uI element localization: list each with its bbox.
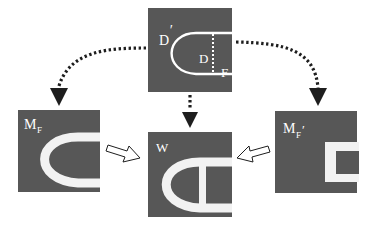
hollow-arrow-left-to-center: [106, 145, 140, 162]
panel-right-mf-prime: M F ′: [275, 111, 359, 193]
dotted-arrow-top-to-center: [182, 95, 198, 128]
label-f-inner: F: [221, 65, 228, 80]
label-m: M: [283, 121, 296, 136]
label-d-inner: D: [199, 51, 208, 66]
label-m: M: [24, 117, 37, 132]
prime-mark: ′: [302, 122, 305, 137]
label-w: W: [156, 140, 169, 155]
dotted-arrow-top-to-right: [236, 42, 327, 106]
hollow-arrow-right-to-center: [237, 146, 270, 162]
diagram-canvas: D ′ D F M F W M F ′: [0, 0, 370, 226]
label-subscript-f: F: [296, 130, 301, 140]
panel-top: D ′ D F: [148, 8, 234, 92]
dotted-arrow-top-to-left: [50, 48, 146, 106]
panel-left-mf: M F: [18, 110, 102, 192]
panel-center-w: W: [148, 132, 234, 217]
label-subscript-f: F: [37, 125, 42, 135]
label-d-prime: D: [159, 33, 169, 48]
